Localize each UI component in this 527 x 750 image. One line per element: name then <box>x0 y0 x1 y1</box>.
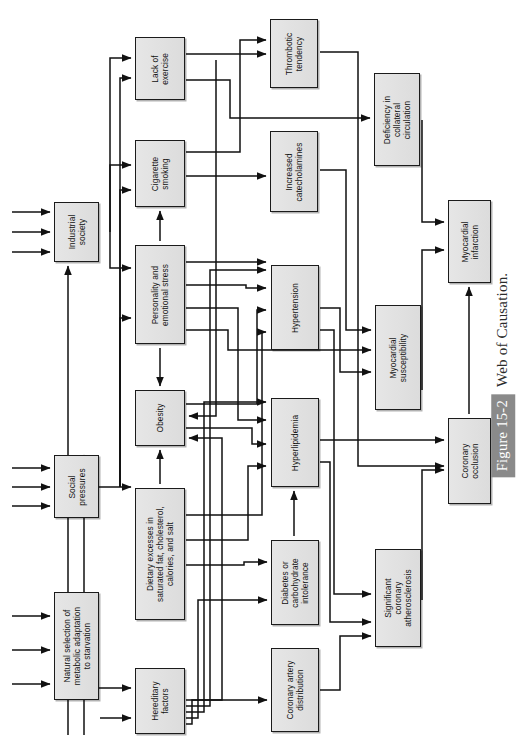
node-label: Cigarette smoking <box>150 156 170 191</box>
node-label: Social pressures <box>66 468 86 505</box>
node-industrial-society: Industrial society <box>54 202 99 262</box>
node-label: Deficiency in collateral circulation <box>382 95 412 143</box>
node-label: Thrombotic tendency <box>284 32 304 75</box>
node-obesity: Obesity <box>135 390 185 446</box>
node-label: Personality and emotional stress <box>150 263 170 325</box>
node-label: Coronary artery distribution <box>285 660 305 719</box>
figure-caption: Figure 15-2 Web of Causation. <box>481 0 525 750</box>
node-increased-catecholamines: Increased catecholamines <box>270 131 318 212</box>
node-thrombotic-tendency: Thrombotic tendency <box>270 19 318 88</box>
node-significant-coronary-atherosclerosis: Significant coronary atherosclerosis <box>375 549 421 647</box>
node-lack-of-exercise: Lack of exercise <box>135 37 185 100</box>
node-label: Industrial society <box>66 215 86 250</box>
figure-caption-text: Web of Causation. <box>495 273 512 387</box>
node-hereditary-factors: Hereditary factors <box>135 668 185 734</box>
node-label: Myocardial susceptibility <box>388 333 408 381</box>
node-social-pressures: Social pressures <box>54 455 99 518</box>
node-label: Increased catecholamines <box>284 142 304 201</box>
node-label: Hypertension <box>290 282 300 332</box>
node-myocardial-susceptibility: Myocardial susceptibility <box>375 305 421 410</box>
node-hyperlipidemia: Hyperlipidemia <box>271 398 319 487</box>
node-natural-selection: Natural selection of metabolic adaptatio… <box>54 592 99 700</box>
node-dietary-excesses: Dietary excesses in saturated fat, chole… <box>135 488 185 620</box>
node-label: Significant coronary atherosclerosis <box>383 569 413 626</box>
node-label: Natural selection of metabolic adaptatio… <box>61 607 91 686</box>
node-label: Diabetes or carbohydrate intolerance <box>280 558 310 608</box>
node-deficiency-collateral: Deficiency in collateral circulation <box>374 73 420 166</box>
node-label: Hyperlipidemia <box>290 414 300 470</box>
node-label: Coronary occlusion <box>459 443 479 479</box>
node-label: Lack of exercise <box>150 53 170 85</box>
node-label: Hereditary factors <box>150 681 170 720</box>
figure-number-badge: Figure 15-2 <box>491 394 515 477</box>
node-label: Obesity <box>155 404 165 433</box>
node-coronary-artery-distribution: Coronary artery distribution <box>271 648 319 732</box>
node-personality-stress: Personality and emotional stress <box>135 245 185 344</box>
node-label: Myocardial infarction <box>459 221 479 262</box>
node-label: Dietary excesses in saturated fat, chole… <box>145 506 175 602</box>
node-hypertension: Hypertension <box>271 265 319 350</box>
node-diabetes-carbohydrate: Diabetes or carbohydrate intolerance <box>271 540 319 625</box>
figure-canvas: Lack of exerciseCigarette smokingIndustr… <box>0 0 527 750</box>
node-cigarette-smoking: Cigarette smoking <box>135 140 185 207</box>
